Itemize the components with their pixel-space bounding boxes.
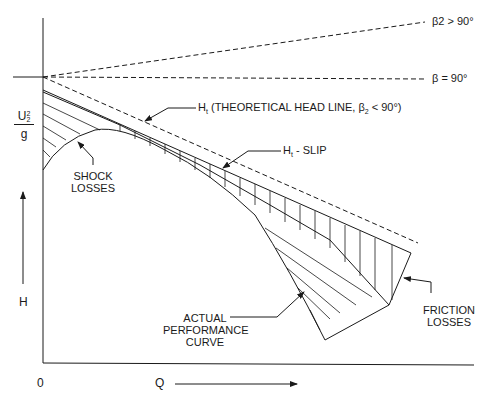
- friction-hatch: [265, 228, 372, 330]
- theoretical-leader: [145, 108, 196, 121]
- shock-losses-label: SHOCK LOSSES: [68, 170, 118, 194]
- x-axis: [43, 363, 474, 365]
- beta-gt-90-label: β2 > 90°: [432, 15, 474, 27]
- shock-leader: [78, 142, 93, 165]
- slip-hatch: [120, 124, 392, 300]
- q-axis-label: Q: [155, 377, 164, 389]
- shock-loss-curve: [43, 129, 165, 170]
- u2-over-g-label: U22 g: [14, 110, 34, 140]
- beta-eq-90-line: [43, 77, 425, 79]
- origin-label: 0: [37, 377, 44, 389]
- slip-leader: [223, 151, 281, 168]
- friction-losses-label: FRICTION LOSSES: [419, 304, 479, 328]
- beta-eq-90-label: β = 90°: [432, 72, 468, 84]
- ht-slip-label: Ht - SLIP: [283, 144, 327, 161]
- friction-leader: [404, 278, 431, 293]
- h-axis-label: H: [19, 296, 28, 308]
- theoretical-head-label: Ht (THEORETICAL HEAD LINE, β2 < 90°): [198, 101, 402, 118]
- beta-gt-90-line: [43, 22, 425, 77]
- actual-performance-label: ACTUAL PERFORMANCE CURVE: [163, 312, 247, 348]
- friction-boundary: [43, 92, 389, 305]
